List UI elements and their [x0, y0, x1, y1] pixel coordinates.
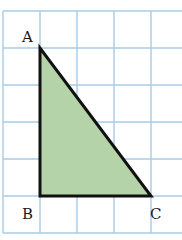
- vertex-label-a: A: [21, 28, 33, 46]
- vertex-label-b: B: [22, 205, 33, 223]
- triangle-grid-diagram: A B C: [0, 0, 182, 240]
- vertex-label-c: C: [150, 205, 161, 223]
